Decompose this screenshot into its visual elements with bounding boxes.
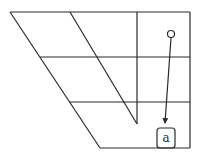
inner-slant bbox=[70, 12, 137, 124]
target-box-label: a bbox=[162, 131, 169, 145]
pointer-arrow bbox=[165, 38, 171, 123]
outer-left-slant bbox=[10, 12, 100, 148]
target-box: a bbox=[157, 128, 175, 148]
start-circle-icon bbox=[168, 31, 175, 38]
diagram-canvas: a bbox=[0, 0, 199, 158]
